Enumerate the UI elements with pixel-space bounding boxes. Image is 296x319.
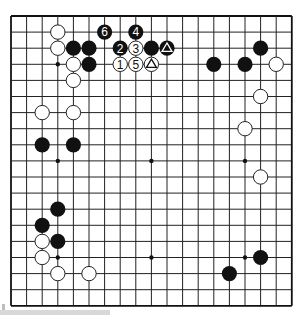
move-number-label: 1 (117, 58, 124, 72)
star-point (56, 159, 60, 163)
black-stone (206, 57, 221, 72)
black-stone (50, 202, 65, 217)
white-stone (253, 170, 267, 184)
black-stone (66, 41, 81, 56)
black-stone: 4 (128, 24, 143, 39)
black-stone (237, 57, 252, 72)
move-number-label: 3 (132, 42, 139, 56)
white-stone (35, 234, 49, 248)
black-stone (159, 41, 174, 56)
star-point (56, 62, 60, 66)
white-stone (66, 105, 80, 119)
white-stone: 5 (129, 57, 143, 71)
white-stone (51, 25, 65, 39)
white-stone: 1 (113, 57, 127, 71)
star-point (243, 255, 247, 259)
white-stone (35, 105, 49, 119)
black-stone (35, 137, 50, 152)
star-point (149, 159, 153, 163)
black-stone (81, 57, 96, 72)
star-point (243, 159, 247, 163)
black-stone (35, 218, 50, 233)
black-stone: 2 (113, 41, 128, 56)
move-number-label: 4 (132, 25, 139, 39)
star-point (56, 255, 60, 259)
black-stone (66, 137, 81, 152)
move-number-label: 2 (117, 42, 124, 56)
white-stone (144, 57, 158, 71)
black-stone (144, 41, 159, 56)
white-stone (238, 122, 252, 136)
white-stone (66, 57, 80, 71)
black-stone (50, 234, 65, 249)
go-board: 642315 (0, 0, 296, 319)
black-stone: 6 (97, 24, 112, 39)
scan-artifact-bar (0, 310, 110, 315)
star-point (149, 255, 153, 259)
move-number-label: 5 (132, 58, 139, 72)
white-stone (51, 41, 65, 55)
stones-layer: 642315 (35, 24, 284, 281)
white-stone: 3 (129, 41, 143, 56)
white-stone (66, 73, 80, 87)
white-stone (51, 266, 65, 280)
white-stone (35, 250, 49, 264)
black-stone (253, 41, 268, 56)
move-number-label: 6 (101, 25, 108, 39)
black-stone (81, 41, 96, 56)
white-stone (253, 89, 267, 103)
black-stone (253, 250, 268, 265)
white-stone (82, 266, 96, 280)
black-stone (222, 266, 237, 281)
white-stone (269, 57, 283, 71)
